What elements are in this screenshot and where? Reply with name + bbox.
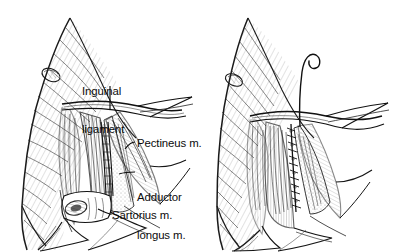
anatomy-illustration-svg [0,0,398,252]
label-pectineus: Pectineus m. [137,137,202,150]
label-sartorius: Sartorius m. [112,209,172,222]
label-adductor-longus-line1: Adductor [137,191,185,204]
suture-thread [300,54,320,126]
label-inguinal-ligament-line1: Inguinal [82,85,124,98]
sartorius-stump [62,192,112,223]
label-adductor-longus-line2: longus m. [137,229,185,242]
right-panel-group [217,18,389,251]
label-inguinal-ligament-line2: ligament [82,123,124,136]
label-inguinal-ligament: Inguinal ligament [82,60,124,161]
illustration-canvas: Inguinal ligament Pectineus m. Adductor … [0,0,398,252]
